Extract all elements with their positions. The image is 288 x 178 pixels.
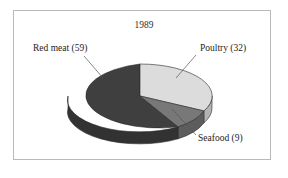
slice-label-seafood: Seafood (9) — [198, 133, 243, 144]
pie-body — [67, 64, 212, 144]
slice-label-red-meat: Red meat (59) — [33, 43, 87, 54]
pie-chart: 1989 Red meat (59) Poultry (32) — [0, 0, 288, 178]
chart-title: 1989 — [135, 20, 154, 30]
slice-label-poultry: Poultry (32) — [200, 43, 246, 54]
figure-root: 1989 Red meat (59) Poultry (32) — [0, 0, 288, 178]
leader-line-red-meat — [84, 56, 103, 78]
